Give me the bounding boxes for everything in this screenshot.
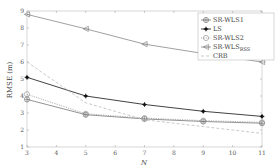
- rmse-line-chart: 123456789 34567891011 N RMSE (m) SR-WLS1…: [0, 0, 278, 167]
- legend-label: LS: [213, 25, 222, 33]
- x-tick-label: 7: [143, 149, 147, 156]
- legend-label: SR-WLS1: [213, 16, 244, 24]
- x-tick-label: 6: [113, 149, 117, 156]
- series-ls: [25, 75, 265, 119]
- x-tick-label: 5: [84, 149, 88, 156]
- x-tick-label: 4: [54, 149, 58, 156]
- x-tick-label: 3: [25, 149, 29, 156]
- x-tick-label: 10: [229, 149, 237, 156]
- y-tick-label: 3: [20, 109, 24, 116]
- y-axis-label: RMSE (m): [6, 61, 14, 98]
- x-tick-label: 8: [172, 149, 176, 156]
- y-tick-label: 1: [20, 143, 24, 150]
- y-tick-label: 7: [20, 41, 24, 48]
- y-tick-label: 9: [20, 7, 24, 14]
- legend-label: CRB: [213, 52, 228, 60]
- y-tick-label: 8: [20, 24, 24, 31]
- y-tick-label: 6: [20, 58, 24, 65]
- x-axis-label: N: [140, 159, 148, 167]
- y-tick-label: 2: [20, 126, 24, 133]
- series-crb: [27, 62, 262, 133]
- x-tick-label: 11: [258, 149, 266, 156]
- legend-label: SR-WLS2: [213, 34, 244, 42]
- y-tick-label: 5: [20, 75, 24, 82]
- y-tick-label: 4: [20, 92, 24, 99]
- legend: SR-WLS1LSSR-WLS2SR-WLSRSSCRB: [198, 13, 274, 60]
- x-tick-label: 9: [201, 149, 205, 156]
